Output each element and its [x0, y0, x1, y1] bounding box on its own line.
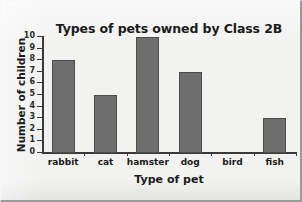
x-axis-label-rabbit: rabbit	[42, 157, 84, 167]
bar-chart-figure: Types of pets owned by Class 2B Number o…	[0, 0, 302, 202]
bar-dog	[179, 72, 202, 153]
x-axis-tick	[169, 152, 170, 156]
x-axis-label-dog: dog	[169, 157, 211, 167]
y-axis-tick-label: 10	[15, 32, 35, 40]
x-axis-label-bird: bird	[211, 157, 253, 167]
x-axis-label-hamster: hamster	[127, 157, 169, 167]
bar-cat	[94, 95, 117, 153]
y-axis-tick-label-text: 5	[17, 90, 35, 98]
y-axis-tick-label-text: 10	[17, 32, 35, 40]
y-axis-tick-label: 8	[15, 55, 35, 63]
y-axis-tick-label: 2	[15, 125, 35, 133]
y-axis-tick-label: 7	[15, 67, 35, 75]
y-axis-tick-label-text: 0	[17, 148, 35, 156]
y-axis-tick-label: 3	[15, 113, 35, 121]
y-axis-tick-label: 4	[15, 102, 35, 110]
y-axis-tick-label: 5	[15, 90, 35, 98]
y-axis-tick-label: 0	[15, 148, 35, 156]
x-axis-tick	[254, 152, 255, 156]
y-axis-tick-label-text: 8	[17, 55, 35, 63]
x-axis-title: Type of pet	[42, 173, 296, 186]
y-axis-tick-label-text: 1	[17, 136, 35, 144]
x-axis-label-fish: fish	[254, 157, 296, 167]
chart-title: Types of pets owned by Class 2B	[53, 21, 285, 36]
y-axis-tick-label-text: 6	[17, 78, 35, 86]
x-axis-tick	[296, 152, 297, 156]
plot-area	[42, 35, 296, 153]
bar-rabbit	[52, 60, 75, 153]
y-axis-tick-label-text: 3	[17, 113, 35, 121]
x-axis-tick	[84, 152, 85, 156]
bar-hamster	[136, 37, 159, 153]
bar-fish	[263, 118, 286, 153]
y-axis-tick-label-text: 7	[17, 67, 35, 75]
y-axis-tick-label-text: 9	[17, 44, 35, 52]
y-axis-tick-label: 1	[15, 136, 35, 144]
y-axis-tick-label-text: 2	[17, 125, 35, 133]
x-axis-tick	[211, 152, 212, 156]
y-axis-tick-label: 6	[15, 78, 35, 86]
y-axis-tick-label: 9	[15, 44, 35, 52]
x-axis-tick	[127, 152, 128, 156]
x-axis-label-cat: cat	[84, 157, 126, 167]
y-axis-tick-label-text: 4	[17, 102, 35, 110]
